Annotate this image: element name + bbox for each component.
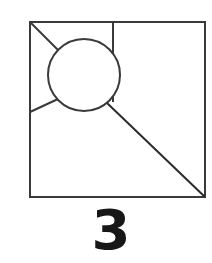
inner-circle — [48, 39, 120, 111]
caption-layer: 3 — [0, 199, 212, 263]
figure-number-label: 3 — [0, 199, 212, 261]
figure-container: 3 — [0, 0, 212, 263]
